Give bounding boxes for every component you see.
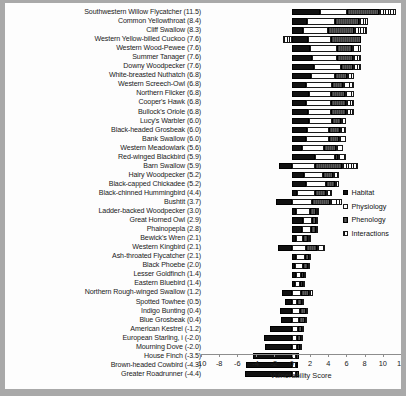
bar-row <box>201 316 401 325</box>
physiology-segment <box>292 163 315 169</box>
physiology-segment <box>307 18 334 24</box>
physiology-segment <box>302 145 324 151</box>
category-label-row: Brown-headed Cowbird (-4.3) <box>5 361 201 370</box>
interactions-segment <box>316 226 318 232</box>
physiology-segment <box>292 290 301 296</box>
phenology-segment <box>332 118 341 124</box>
habitat-segment <box>292 127 307 133</box>
interactions-segment <box>336 145 343 151</box>
legend-item: Phenology <box>343 213 401 227</box>
category-label-row: Black Phoebe (2.0) <box>5 261 201 270</box>
x-axis-tick-label: -10 <box>196 359 207 368</box>
category-label: Eastern Bluebird (1.4) <box>5 279 201 288</box>
category-label: Downy Woodpecker (7.6) <box>5 62 201 71</box>
category-label: Hairy Woodpecker (5.2) <box>5 171 201 180</box>
bar-row <box>201 98 401 107</box>
category-label-row: House Finch (-3.5) <box>5 352 201 361</box>
habitat-segment <box>292 9 320 15</box>
bar-row <box>201 117 401 126</box>
legend-label: Phenology <box>352 215 386 224</box>
physiology-segment <box>295 263 303 269</box>
phenology-segment <box>337 45 352 51</box>
x-axis-tick <box>328 354 329 357</box>
physiology-segment <box>303 27 328 33</box>
x-axis-tick <box>383 354 384 357</box>
bar-row <box>201 26 401 35</box>
interactions-segment <box>343 82 354 88</box>
physiology-segment <box>304 172 323 178</box>
category-label-row: Indigo Bunting (0.4) <box>5 307 201 316</box>
interactions-segment <box>340 127 346 133</box>
category-label: Great Horned Owl (2.9) <box>5 216 201 225</box>
category-label-row: Lucy's Warbler (6.0) <box>5 117 201 126</box>
category-label-column: Southwestern Willow Flycatcher (11.5)Com… <box>5 8 201 379</box>
interactions-segment <box>353 64 361 70</box>
interactions-segment <box>304 272 306 278</box>
category-label-row: Greater Roadrunner (-4.4) <box>5 370 201 379</box>
bar-row <box>201 135 401 144</box>
physiology-segment <box>292 199 312 205</box>
phenology-segment <box>347 9 379 15</box>
interactions-segment <box>333 172 339 178</box>
chart-legend: HabitatPhysiologyPhenologyInteractions <box>343 186 401 240</box>
habitat-segment <box>292 82 306 88</box>
x-axis-title: Vulnerability Score <box>201 371 401 380</box>
bar-row <box>201 325 401 334</box>
legend-swatch-interactions <box>343 231 348 236</box>
category-label-row: Barn Swallow (5.9) <box>5 162 201 171</box>
interactions-segment <box>354 27 368 33</box>
habitat-segment <box>279 163 292 169</box>
category-label-row: Cooper's Hawk (6.8) <box>5 98 201 107</box>
category-label: Western Wood-Pewee (7.6) <box>5 44 201 53</box>
category-label-row: Bewick's Wren (2.1) <box>5 234 201 243</box>
habitat-segment <box>292 18 307 24</box>
phenology-segment <box>301 290 309 296</box>
category-label: Bushtit (3.7) <box>5 198 201 207</box>
chart-figure: Southwestern Willow Flycatcher (11.5)Com… <box>5 3 401 389</box>
category-label: Black-capped Chickadee (5.2) <box>5 180 201 189</box>
interactions-segment <box>347 73 353 79</box>
bar-row <box>201 53 401 62</box>
x-axis-tick <box>310 354 311 357</box>
legend-label: Physiology <box>352 202 387 211</box>
category-label-row: Common Yellowthroat (8.4) <box>5 17 201 26</box>
physiology-segment <box>292 317 299 323</box>
x-axis-tick-label: 8 <box>363 359 367 368</box>
bar-row <box>201 307 401 316</box>
habitat-segment <box>292 109 308 115</box>
legend-swatch-habitat <box>343 190 348 195</box>
phenology-segment <box>335 73 348 79</box>
interactions-segment <box>308 235 311 241</box>
category-label-row: Ladder-backed Woodpecker (3.0) <box>5 207 201 216</box>
habitat-segment <box>292 154 315 160</box>
phenology-segment <box>335 18 360 24</box>
phenology-segment <box>329 127 340 133</box>
habitat-segment <box>264 335 292 341</box>
category-label-row: Northern Rough-winged Swallow (1.2) <box>5 288 201 297</box>
habitat-segment <box>292 226 302 232</box>
physiology-segment <box>306 136 330 142</box>
bar-row <box>201 89 401 98</box>
category-label: Western Kingbird (2.1) <box>5 243 201 252</box>
bar-row <box>201 261 401 270</box>
interactions-segment <box>309 254 311 260</box>
physiology-segment <box>309 91 331 97</box>
interactions-segment <box>305 317 307 323</box>
bar-row <box>201 279 401 288</box>
interactions-segment <box>342 163 358 169</box>
category-label: American Kestrel (-1.2) <box>5 325 201 334</box>
x-axis-tick <box>237 354 238 357</box>
habitat-segment <box>276 199 292 205</box>
physiology-segment <box>310 45 337 51</box>
habitat-segment <box>292 145 302 151</box>
category-label-row: Downy Woodpecker (7.6) <box>5 62 201 71</box>
category-label-row: White-breasted Nuthatch (6.8) <box>5 71 201 80</box>
physiology-segment <box>311 73 335 79</box>
category-label: Northern Flicker (6.8) <box>5 89 201 98</box>
bar-row <box>201 8 401 17</box>
category-label-row: Western Wood-Pewee (7.6) <box>5 44 201 53</box>
x-axis-tick-label: 4 <box>326 359 330 368</box>
interactions-segment <box>306 308 308 314</box>
physiology-segment <box>309 118 332 124</box>
interactions-segment <box>339 136 346 142</box>
